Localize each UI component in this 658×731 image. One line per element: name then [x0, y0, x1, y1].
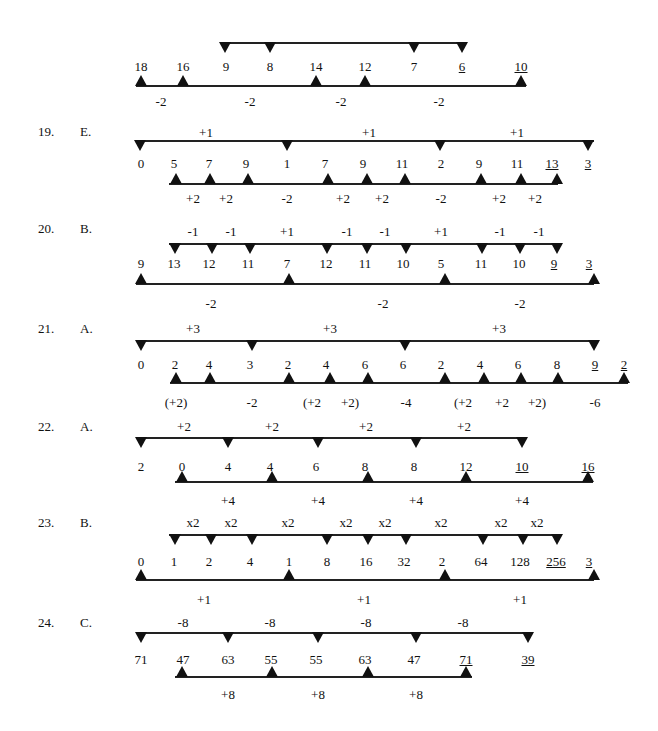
top-step-label: x2: [282, 516, 295, 530]
series-number: 8: [554, 358, 561, 372]
bottom-step-label: +2: [528, 192, 542, 206]
up-triangle-icon: [135, 569, 147, 580]
down-triangle-icon: [410, 632, 422, 643]
series-number: 4: [247, 555, 254, 569]
top-step-label: +1: [280, 225, 294, 239]
top-step-label: x2: [225, 516, 238, 530]
series-number: 18: [135, 60, 148, 74]
series-number: 7: [284, 257, 291, 271]
bottom-step-label: -2: [336, 95, 347, 109]
bottom-series-line: [136, 283, 594, 285]
up-triangle-icon: [135, 273, 147, 284]
bottom-step-label: -2: [247, 396, 258, 410]
series-number: 11: [511, 157, 524, 171]
down-triangle-icon: [264, 42, 276, 53]
bottom-step-label: +2: [186, 192, 200, 206]
answer-number: 3: [586, 555, 593, 569]
series-number: 11: [396, 157, 409, 171]
up-triangle-icon: [324, 372, 336, 383]
answer-letter: B.: [80, 516, 92, 530]
down-triangle-icon: [410, 437, 422, 448]
down-triangle-icon: [400, 534, 412, 545]
series-number: 8: [267, 60, 274, 74]
down-triangle-icon: [400, 243, 412, 254]
answer-letter: A.: [80, 322, 93, 336]
up-triangle-icon: [283, 372, 295, 383]
down-triangle-icon: [169, 534, 181, 545]
up-triangle-icon: [204, 173, 216, 184]
top-step-label: +2: [457, 420, 471, 434]
down-triangle-icon: [522, 632, 534, 643]
up-triangle-icon: [588, 569, 600, 580]
down-triangle-icon: [588, 340, 600, 351]
top-step-label: -1: [380, 225, 391, 239]
series-number: 9: [476, 157, 483, 171]
series-number: 10: [397, 257, 410, 271]
series-number: 1: [286, 555, 293, 569]
series-number: 11: [242, 257, 255, 271]
down-triangle-icon: [582, 140, 594, 151]
top-step-label: +3: [186, 322, 200, 336]
bottom-series-line: [136, 579, 594, 581]
series-number: 128: [510, 555, 530, 569]
up-triangle-icon: [588, 273, 600, 284]
bottom-step-label: (+2): [165, 396, 188, 410]
top-step-label: -1: [226, 225, 237, 239]
bottom-step-label: (+2: [454, 396, 472, 410]
bottom-step-label: (+2: [303, 396, 321, 410]
top-step-label: +1: [434, 225, 448, 239]
answer-number: 9: [592, 358, 599, 372]
bottom-step-label: +8: [311, 688, 325, 702]
top-step-label: +2: [177, 420, 191, 434]
down-triangle-icon: [222, 632, 234, 643]
down-triangle-icon: [222, 437, 234, 448]
series-number: 1: [171, 555, 178, 569]
up-triangle-icon: [242, 173, 254, 184]
series-number: 3: [247, 358, 254, 372]
answer-number: 3: [585, 157, 592, 171]
down-triangle-icon: [514, 243, 526, 254]
series-number: 12: [320, 257, 333, 271]
series-number: 0: [138, 555, 145, 569]
up-triangle-icon: [582, 471, 594, 482]
up-triangle-icon: [551, 173, 563, 184]
up-triangle-icon: [362, 372, 374, 383]
question-number: 21.: [38, 322, 54, 336]
top-step-label: x2: [531, 516, 544, 530]
series-number: 47: [177, 653, 190, 667]
series-number: 71: [135, 653, 148, 667]
up-triangle-icon: [439, 372, 451, 383]
top-step-label: -8: [361, 616, 372, 630]
answer-letter: B.: [80, 222, 92, 236]
answer-number: 13: [546, 157, 559, 171]
top-step-label: -1: [188, 225, 199, 239]
series-number: 63: [222, 653, 235, 667]
series-number: 12: [359, 60, 372, 74]
up-triangle-icon: [359, 75, 371, 86]
top-step-label: +1: [362, 126, 376, 140]
down-triangle-icon: [135, 437, 147, 448]
up-triangle-icon: [322, 173, 334, 184]
bottom-step-label: +2): [528, 396, 546, 410]
top-series-line: [136, 437, 527, 439]
down-triangle-icon: [135, 340, 147, 351]
bottom-step-label: -2: [206, 297, 217, 311]
down-triangle-icon: [477, 534, 489, 545]
up-triangle-icon: [135, 75, 147, 86]
top-step-label: +2: [265, 420, 279, 434]
series-number: 5: [438, 257, 445, 271]
bottom-step-label: -2: [434, 95, 445, 109]
top-step-label: +3: [492, 322, 506, 336]
top-step-label: -8: [178, 616, 189, 630]
down-triangle-icon: [246, 534, 258, 545]
answer-number: 71: [460, 653, 473, 667]
series-number: 5: [171, 157, 178, 171]
bottom-step-label: -2: [378, 297, 389, 311]
top-step-label: +3: [323, 322, 337, 336]
bottom-series-line: [175, 481, 593, 483]
down-triangle-icon: [169, 243, 181, 254]
question-number: 22.: [38, 420, 54, 434]
top-step-label: +1: [510, 126, 524, 140]
down-triangle-icon: [205, 534, 217, 545]
down-triangle-icon: [476, 243, 488, 254]
